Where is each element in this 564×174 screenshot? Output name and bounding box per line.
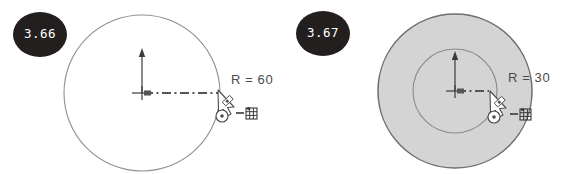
- step-number-label: 3.66: [24, 28, 56, 41]
- grid-snap-icon: [236, 107, 257, 119]
- step-number-label: 3.67: [307, 27, 339, 40]
- radius-dimension-line[interactable]: [144, 91, 220, 96]
- figure-panel-step-366: 3.66 R = 60: [0, 0, 282, 174]
- axis-up-arrow-icon: [139, 48, 145, 57]
- figure-panel-step-367: 3.67 R = 30: [282, 0, 564, 174]
- radius-readout-label: R = 60: [231, 73, 273, 86]
- step-number-badge: 3.67: [296, 11, 350, 56]
- dimension-origin-handle[interactable]: [457, 89, 464, 94]
- step-number-badge: 3.66: [13, 12, 67, 57]
- circle-tool-cursor[interactable]: [216, 90, 234, 122]
- radius-readout-label: R = 30: [508, 71, 550, 84]
- dimension-origin-handle[interactable]: [144, 91, 151, 96]
